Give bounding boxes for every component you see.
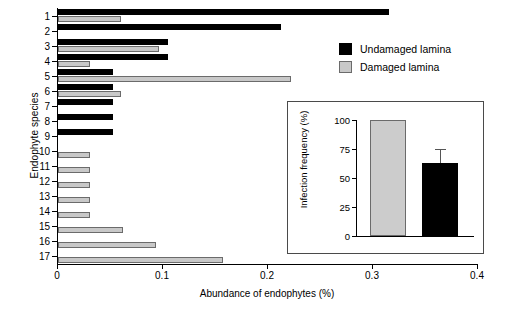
legend: Undamaged lamina Damaged lamina: [339, 40, 451, 76]
inset-y-tick-label: 50: [339, 173, 350, 184]
bar-undamaged: [58, 129, 113, 135]
y-axis-tick: [52, 31, 57, 32]
bar-undamaged: [58, 24, 281, 30]
y-axis-tick-label: 5: [44, 70, 50, 81]
inset-bar-damaged: [370, 120, 406, 236]
y-axis-tick: [52, 76, 57, 77]
y-axis-tick: [52, 151, 57, 152]
y-axis-tick: [52, 181, 57, 182]
bar-undamaged: [58, 69, 113, 75]
y-axis-tick-label: 13: [39, 191, 50, 202]
bar-damaged: [58, 152, 90, 158]
legend-swatch-damaged-icon: [339, 61, 352, 73]
x-axis-tick-label: 0.4: [470, 270, 484, 281]
y-axis-tick: [52, 16, 57, 17]
legend-swatch-undamaged-icon: [339, 43, 352, 55]
y-axis-tick-label: 12: [39, 176, 50, 187]
inset-plot-area: 0255075100: [356, 120, 466, 236]
legend-label-damaged: Damaged lamina: [360, 61, 439, 73]
y-axis-tick: [52, 106, 57, 107]
bar-damaged: [58, 167, 90, 173]
inset-error-bar-cap: [435, 149, 446, 150]
y-axis-tick-label: 6: [44, 85, 50, 96]
bar-undamaged: [58, 114, 113, 120]
bar-damaged: [58, 197, 90, 203]
endophyte-abundance-figure: Endophyte species 1234567891011121314151…: [0, 0, 505, 313]
bar-row: 2: [57, 23, 477, 38]
bar-damaged: [58, 76, 291, 82]
bar-undamaged: [58, 54, 168, 60]
bar-damaged: [58, 61, 90, 67]
x-axis-tick: [372, 264, 373, 269]
inset-y-tick-label: 0: [345, 231, 350, 242]
y-axis-tick-label: 4: [44, 55, 50, 66]
y-axis-tick: [52, 91, 57, 92]
bar-undamaged: [58, 84, 113, 90]
legend-item-undamaged: Undamaged lamina: [339, 40, 451, 58]
legend-label-undamaged: Undamaged lamina: [360, 43, 451, 55]
y-axis-tick-label: 14: [39, 206, 50, 217]
inset-y-tick: [352, 178, 356, 179]
inset-y-tick: [352, 149, 356, 150]
y-axis-tick-label: 2: [44, 25, 50, 36]
y-axis-tick-label: 11: [40, 161, 50, 172]
bar-damaged: [58, 212, 90, 218]
inset-error-bar: [440, 149, 441, 163]
y-axis-tick-label: 9: [44, 130, 50, 141]
inset-x-axis-line: [356, 236, 474, 237]
bar-damaged: [58, 227, 123, 233]
inset-y-tick: [352, 236, 356, 237]
bar-damaged: [58, 182, 90, 188]
x-axis-tick: [162, 264, 163, 269]
bar-undamaged: [58, 9, 389, 15]
y-axis-tick: [52, 166, 57, 167]
legend-item-damaged: Damaged lamina: [339, 58, 451, 76]
bar-damaged: [58, 16, 121, 22]
y-axis-tick: [52, 136, 57, 137]
inset-y-tick-label: 100: [334, 115, 350, 126]
bar-row: 1: [57, 8, 477, 23]
x-axis-tick: [267, 264, 268, 269]
inset-y-tick: [352, 207, 356, 208]
y-axis-tick: [52, 226, 57, 227]
y-axis-tick-label: 17: [39, 251, 50, 262]
y-axis-tick: [52, 241, 57, 242]
y-axis-tick: [52, 121, 57, 122]
x-axis-tick-label: 0.1: [155, 270, 169, 281]
x-axis-tick-label: 0.2: [260, 270, 274, 281]
y-axis-tick: [52, 46, 57, 47]
x-axis-tick-label: 0.3: [365, 270, 379, 281]
x-axis-tick: [477, 264, 478, 269]
inset-y-axis-line: [356, 120, 357, 236]
y-axis-title: Endophyte species: [29, 46, 40, 226]
inset-y-axis-title: Infection frequency (%): [298, 100, 309, 220]
y-axis-tick-label: 10: [39, 146, 50, 157]
bar-row: 6: [57, 83, 477, 98]
y-axis-tick-label: 1: [44, 10, 50, 21]
y-axis-tick-label: 8: [44, 115, 50, 126]
y-axis-tick: [52, 61, 57, 62]
inset-bar-undamaged: [422, 163, 458, 236]
y-axis-tick: [52, 211, 57, 212]
bar-damaged: [58, 257, 223, 263]
x-axis-tick: [57, 264, 58, 269]
y-axis-tick-label: 3: [44, 40, 50, 51]
bar-damaged: [58, 91, 121, 97]
x-axis-title: Abundance of endophytes (%): [57, 288, 477, 299]
inset-y-tick-label: 75: [339, 144, 350, 155]
y-axis-tick-label: 7: [44, 100, 50, 111]
inset-infection-frequency-chart: Infection frequency (%) 0255075100: [287, 101, 484, 254]
bar-damaged: [58, 242, 156, 248]
bar-undamaged: [58, 39, 168, 45]
y-axis-tick-label: 15: [39, 221, 50, 232]
y-axis-tick-label: 16: [39, 236, 50, 247]
bar-damaged: [58, 46, 159, 52]
y-axis-tick: [52, 196, 57, 197]
y-axis-tick: [52, 256, 57, 257]
x-axis-tick-label: 0: [54, 270, 60, 281]
inset-y-tick-label: 25: [339, 202, 350, 213]
inset-y-tick: [352, 120, 356, 121]
bar-undamaged: [58, 99, 113, 105]
